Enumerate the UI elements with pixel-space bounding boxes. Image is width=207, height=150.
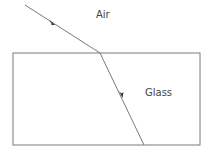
refracted-ray — [100, 53, 144, 145]
air-label: Air — [96, 10, 110, 20]
incident-ray — [25, 5, 100, 53]
incident-ray-arrow-icon — [49, 20, 55, 26]
refraction-diagram — [0, 0, 207, 150]
glass-label: Glass — [145, 88, 172, 98]
